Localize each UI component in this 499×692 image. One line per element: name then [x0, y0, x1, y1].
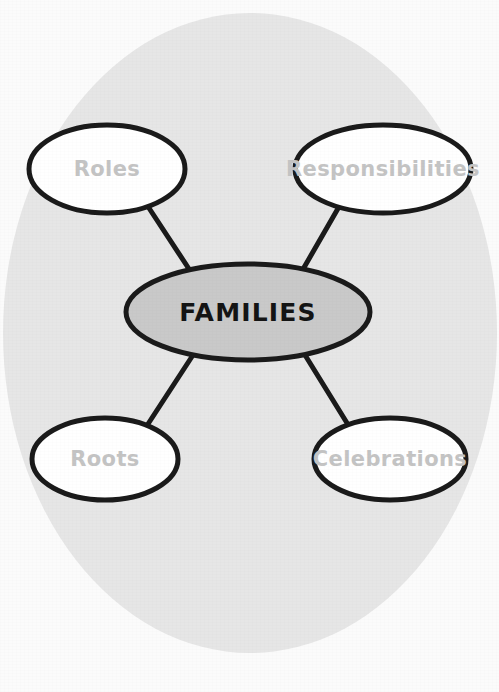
node-responsibilities[interactable]: Responsibilities — [286, 125, 480, 213]
node-celebrations-label: Celebrations — [313, 447, 468, 471]
diagram-canvas: Roles Responsibilities Roots Celebration… — [0, 0, 499, 692]
node-roles[interactable]: Roles — [29, 125, 185, 213]
node-responsibilities-label: Responsibilities — [286, 157, 480, 181]
node-center-label: FAMILIES — [179, 298, 317, 327]
concept-map-svg: Roles Responsibilities Roots Celebration… — [0, 0, 499, 692]
node-roots[interactable]: Roots — [32, 418, 178, 500]
node-roots-label: Roots — [70, 447, 140, 471]
node-center-families[interactable]: FAMILIES — [126, 264, 370, 360]
node-roles-label: Roles — [74, 157, 141, 181]
node-celebrations[interactable]: Celebrations — [313, 418, 468, 500]
